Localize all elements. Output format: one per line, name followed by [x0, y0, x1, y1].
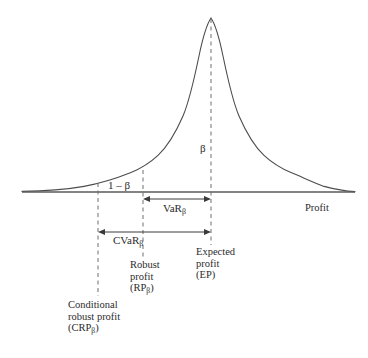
cvar-beta-label: CVaRβ	[113, 235, 143, 250]
robust-profit-paren-open: (RP	[130, 282, 146, 293]
expected-profit-label: Expected profit (EP)	[196, 246, 235, 281]
expected-profit-line3: (EP)	[196, 269, 235, 281]
beta-probability-label: β	[200, 143, 206, 155]
profit-distribution-figure: 1 – β β VaRβ CVaRβ Expected profit (EP) …	[0, 0, 368, 358]
conditional-robust-profit-line1: Conditional	[68, 299, 120, 311]
robust-profit-paren-close: )	[150, 282, 154, 293]
cvar-beta-subscript: β	[139, 239, 143, 248]
density-curve	[22, 18, 355, 192]
profit-axis-label: Profit	[305, 202, 329, 214]
conditional-robust-profit-paren-open: (CRP	[68, 322, 91, 333]
tail-probability-label: 1 – β	[108, 180, 130, 192]
conditional-robust-profit-label: Conditional robust profit (CRPβ)	[68, 299, 120, 337]
expected-profit-line2: profit	[196, 258, 235, 270]
var-beta-label: VaRβ	[163, 203, 186, 218]
robust-profit-label: Robust profit (RPβ)	[130, 259, 160, 297]
expected-profit-line1: Expected	[196, 246, 235, 258]
robust-profit-line2: profit	[130, 271, 160, 283]
robust-profit-line3: (RPβ)	[130, 282, 160, 297]
var-beta-subscript: β	[182, 207, 186, 216]
conditional-robust-profit-line3: (CRPβ)	[68, 322, 120, 337]
var-beta-text: VaR	[163, 202, 182, 214]
robust-profit-line1: Robust	[130, 259, 160, 271]
cvar-beta-text: CVaR	[113, 234, 139, 246]
conditional-robust-profit-line2: robust profit	[68, 311, 120, 323]
figure-canvas	[0, 0, 368, 358]
conditional-robust-profit-paren-close: )	[95, 322, 99, 333]
